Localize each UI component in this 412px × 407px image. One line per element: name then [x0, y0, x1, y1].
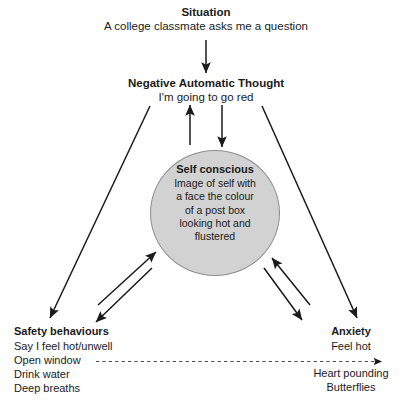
- anxiety-detail: Feel hot: [292, 339, 410, 353]
- safety-behaviours-item-1: Say I feel hot/unwell: [14, 339, 164, 353]
- self-image-line-3: of a post box: [150, 204, 280, 217]
- self-image-line-1: Image of self with: [150, 177, 280, 190]
- physical-symptom-2: Butterflies: [292, 380, 410, 394]
- self-image-text: Self conscious Image of self with a face…: [150, 163, 280, 243]
- physical-symptom-1: Heart pounding: [292, 366, 410, 380]
- self-image-line-4: looking hot and: [150, 217, 280, 230]
- negative-automatic-thought-detail: I'm going to go red: [0, 91, 412, 105]
- negative-automatic-thought-heading: Negative Automatic Thought: [0, 77, 412, 91]
- negative-automatic-thought-node: Negative Automatic Thought I'm going to …: [0, 77, 412, 104]
- connector-anxiety-to-self-image: [272, 258, 310, 305]
- safety-behaviours-heading: Safety behaviours: [14, 325, 164, 339]
- anxiety-node: Anxiety Feel hot: [292, 325, 410, 353]
- self-image-line-2: a face the colour: [150, 190, 280, 203]
- safety-behaviours-item-4: Deep breaths: [14, 381, 164, 395]
- anxiety-heading: Anxiety: [292, 325, 410, 339]
- self-image-line-5: flustered: [150, 230, 280, 243]
- situation-node: Situation A college classmate asks me a …: [0, 6, 412, 33]
- situation-detail: A college classmate asks me a question: [0, 20, 412, 34]
- safety-behaviours-item-2: Open window: [14, 353, 164, 367]
- connector-self-image-to-anxiety: [264, 268, 302, 320]
- physical-symptoms-node: Heart pounding Butterflies: [292, 366, 410, 394]
- safety-behaviours-node: Safety behaviours Say I feel hot/unwell …: [14, 325, 164, 395]
- diagram-canvas: Self conscious Image of self with a face…: [0, 0, 412, 407]
- connector-thought-to-safety-behaviours: [50, 106, 150, 318]
- self-image-heading: Self conscious: [150, 163, 280, 176]
- safety-behaviours-item-3: Drink water: [14, 367, 164, 381]
- situation-heading: Situation: [0, 6, 412, 20]
- connector-self-image-to-safety-behaviours: [96, 268, 152, 322]
- connector-safety-behaviours-to-self-image: [98, 252, 156, 305]
